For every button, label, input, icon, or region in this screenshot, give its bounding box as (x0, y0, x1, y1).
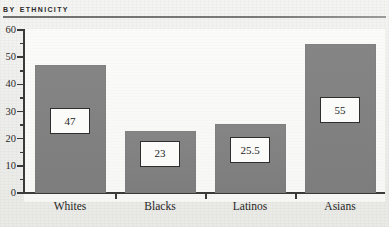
x-axis-category-label: Whites (25, 200, 115, 213)
y-axis-tick-major (17, 165, 25, 167)
x-axis-category-label: Blacks (115, 200, 205, 213)
x-axis-category-label: Latinos (205, 200, 295, 213)
title-block: By Ethnicity (3, 1, 386, 21)
bar-value-label: 25.5 (230, 137, 270, 163)
chart-plot-area: 0102030405060 472325.555 WhitesBlacksLat… (0, 21, 389, 227)
bar-value-label: 47 (50, 108, 90, 134)
y-axis-tick-minor (20, 97, 25, 99)
y-axis-tick-minor (20, 43, 25, 45)
y-axis-tick-label: 40 (0, 79, 16, 89)
y-axis-tick-label: 30 (0, 107, 16, 117)
y-axis-tick-label: 50 (0, 52, 16, 62)
y-axis-tick-minor (20, 70, 25, 72)
y-axis-tick-major (17, 111, 25, 113)
y-axis-labels: 0102030405060 (0, 21, 16, 227)
y-axis-tick-major (17, 29, 25, 31)
y-axis-tick-minor (20, 124, 25, 126)
y-axis-tick-minor (20, 179, 25, 181)
y-axis-tick-label: 20 (0, 134, 16, 144)
x-axis-tick (295, 192, 297, 199)
x-axis-tick (205, 192, 207, 199)
y-axis-tick-label: 60 (0, 25, 16, 35)
y-axis-tick-major (17, 56, 25, 58)
bar-value-label: 23 (140, 141, 180, 167)
y-axis-tick-minor (20, 152, 25, 154)
y-axis-tick-label: 0 (0, 188, 16, 198)
y-axis-tick-major (17, 138, 25, 140)
title-divider (3, 16, 386, 18)
x-axis-tick (115, 192, 117, 199)
x-axis-category-label: Asians (295, 200, 385, 213)
bar-value-label: 55 (320, 97, 360, 123)
chart-page: By Ethnicity 0102030405060 472325.555 Wh… (0, 0, 389, 227)
y-axis-tick-label: 10 (0, 161, 16, 171)
page-title: By Ethnicity (3, 1, 69, 15)
y-axis-tick-major (17, 192, 25, 194)
y-axis-tick-major (17, 84, 25, 86)
